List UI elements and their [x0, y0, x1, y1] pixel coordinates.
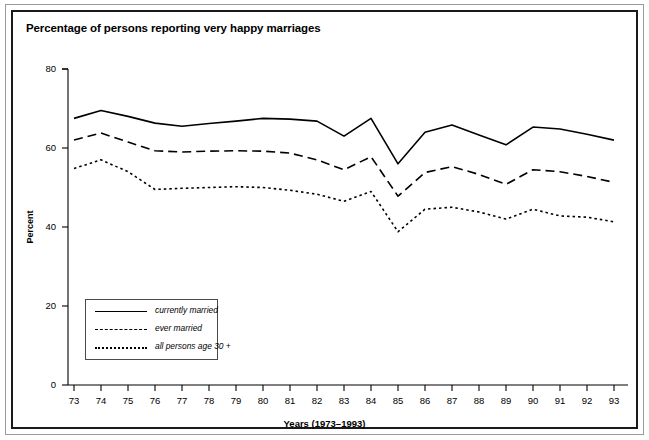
- x-tick-label: 84: [359, 395, 383, 406]
- legend-item-all-persons: all persons age 30 +: [86, 339, 219, 357]
- inner-border: [11, 10, 638, 429]
- x-tick-label: 76: [143, 395, 167, 406]
- x-tick-label: 81: [278, 395, 302, 406]
- y-tick-label: 40: [30, 221, 56, 232]
- x-tick-label: 88: [467, 395, 491, 406]
- legend-swatch-dashed-icon: [95, 329, 147, 330]
- x-tick-label: 80: [251, 395, 275, 406]
- x-tick-label: 91: [548, 395, 572, 406]
- x-axis-label: Years (1973–1993): [0, 418, 649, 429]
- x-tick-label: 78: [197, 395, 221, 406]
- y-tick-label: 0: [30, 379, 56, 390]
- x-tick-label: 83: [332, 395, 356, 406]
- x-tick-label: 79: [224, 395, 248, 406]
- y-tick-label: 80: [30, 63, 56, 74]
- legend-label: all persons age 30 +: [155, 341, 231, 351]
- x-tick-label: 92: [575, 395, 599, 406]
- y-tick-label: 60: [30, 142, 56, 153]
- x-tick-label: 77: [170, 395, 194, 406]
- x-tick-label: 86: [413, 395, 437, 406]
- x-tick-label: 93: [602, 395, 626, 406]
- chart-title: Percentage of persons reporting very hap…: [26, 22, 321, 34]
- x-tick-label: 75: [116, 395, 140, 406]
- y-tick-label: 20: [30, 300, 56, 311]
- x-tick-label: 85: [386, 395, 410, 406]
- x-tick-label: 89: [494, 395, 518, 406]
- chart-page: Percentage of persons reporting very hap…: [0, 0, 649, 440]
- x-tick-label: 90: [521, 395, 545, 406]
- legend-label: currently married: [155, 305, 218, 315]
- legend-item-ever-married: ever married: [86, 321, 219, 339]
- legend-swatch-dotted-icon: [95, 347, 147, 349]
- x-tick-label: 87: [440, 395, 464, 406]
- x-tick-label: 74: [89, 395, 113, 406]
- legend-swatch-solid-icon: [95, 311, 147, 312]
- legend-item-currently-married: currently married: [86, 303, 219, 321]
- x-tick-label: 82: [305, 395, 329, 406]
- legend-label: ever married: [155, 323, 202, 333]
- x-tick-label: 73: [62, 395, 86, 406]
- legend: currently married ever married all perso…: [85, 299, 218, 360]
